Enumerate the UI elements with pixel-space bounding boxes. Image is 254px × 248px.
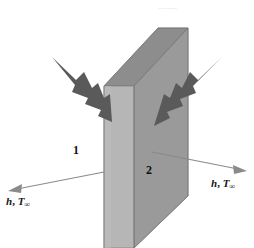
left-convection-arrow — [8, 172, 104, 193]
left-ambient-label: h, T∞ — [6, 196, 30, 209]
left-ambient-comma: , — [12, 195, 15, 207]
surface-label-1: 1 — [73, 144, 79, 156]
right-ambient-comma: , — [217, 177, 220, 189]
plane-wall-convection-diagram: —— — [0, 0, 254, 248]
surface-label-2: 2 — [146, 164, 152, 176]
right-ambient-subscript: ∞ — [229, 182, 235, 191]
right-ambient-label: h, T∞ — [211, 178, 235, 191]
left-ambient-subscript: ∞ — [24, 200, 30, 209]
left-convection-line — [17, 172, 104, 189]
right-convection-arrowhead — [233, 165, 247, 174]
left-convection-arrowhead — [8, 184, 22, 193]
diagram-canvas — [0, 0, 254, 248]
left-heat-flux-arrow — [52, 57, 112, 122]
